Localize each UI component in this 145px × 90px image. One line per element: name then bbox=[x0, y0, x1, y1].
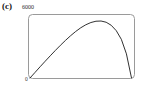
plot-frame bbox=[29, 15, 135, 79]
plot-area bbox=[0, 0, 145, 90]
figure-panel: (c) 6000 0 bbox=[0, 0, 145, 90]
